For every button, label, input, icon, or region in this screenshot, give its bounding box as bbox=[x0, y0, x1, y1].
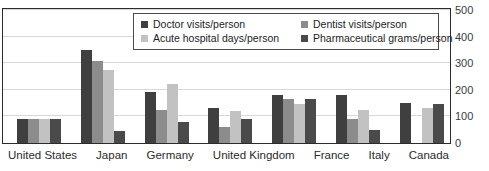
y-axis-tick-label: 400 bbox=[455, 31, 489, 42]
bar-chart: Doctor visits/person Dentist visits/pers… bbox=[0, 0, 489, 171]
bar[interactable] bbox=[145, 92, 156, 143]
bar[interactable] bbox=[28, 119, 39, 143]
y-axis-tick-label: 200 bbox=[455, 84, 489, 95]
x-axis-category-label: Germany bbox=[146, 148, 193, 168]
bar[interactable] bbox=[422, 108, 433, 143]
bar[interactable] bbox=[219, 127, 230, 143]
bar[interactable] bbox=[103, 70, 114, 143]
legend-swatch-pharmaceutical-grams bbox=[301, 35, 308, 42]
x-axis-category-label: Canada bbox=[409, 148, 449, 168]
bar-group bbox=[17, 9, 61, 143]
bar[interactable] bbox=[81, 50, 92, 143]
bar[interactable] bbox=[347, 119, 358, 143]
legend-label-acute-hospital-days: Acute hospital days/person bbox=[153, 32, 279, 44]
y-axis-tick-label: 0 bbox=[455, 138, 489, 149]
bar[interactable] bbox=[208, 108, 219, 143]
x-axis: United StatesJapanGermanyUnited KingdomF… bbox=[2, 148, 451, 168]
x-axis-category-label: United States bbox=[8, 148, 77, 168]
bar[interactable] bbox=[17, 119, 28, 143]
x-axis-category-label: France bbox=[314, 148, 350, 168]
y-axis-tick-label: 500 bbox=[455, 5, 489, 16]
x-axis-category-label: Japan bbox=[96, 148, 127, 168]
bar[interactable] bbox=[283, 99, 294, 143]
y-axis-tick-label: 100 bbox=[455, 111, 489, 122]
legend-entry-doctor-visits[interactable]: Doctor visits/person bbox=[141, 18, 299, 30]
x-axis-category-label: United Kingdom bbox=[213, 148, 295, 168]
legend-entry-acute-hospital-days[interactable]: Acute hospital days/person bbox=[141, 32, 299, 44]
chart-legend: Doctor visits/person Dentist visits/pers… bbox=[133, 13, 439, 50]
bar[interactable] bbox=[167, 84, 178, 143]
bar[interactable] bbox=[92, 61, 103, 143]
bar[interactable] bbox=[39, 119, 50, 143]
legend-swatch-acute-hospital-days bbox=[141, 35, 148, 42]
legend-label-dentist-visits: Dentist visits/person bbox=[313, 18, 407, 30]
bar[interactable] bbox=[336, 95, 347, 143]
y-axis-tick-label: 300 bbox=[455, 58, 489, 69]
legend-swatch-dentist-visits bbox=[301, 21, 308, 28]
x-axis-category-label: Italy bbox=[369, 148, 390, 168]
bar[interactable] bbox=[358, 110, 369, 143]
bar[interactable] bbox=[178, 122, 189, 143]
legend-label-doctor-visits: Doctor visits/person bbox=[153, 18, 245, 30]
bar[interactable] bbox=[272, 95, 283, 143]
bar[interactable] bbox=[400, 103, 411, 143]
bar[interactable] bbox=[230, 111, 241, 143]
bar[interactable] bbox=[305, 99, 316, 143]
bar[interactable] bbox=[369, 130, 380, 143]
legend-entry-pharmaceutical-grams[interactable]: Pharmaceutical grams/person bbox=[301, 32, 452, 44]
legend-entry-dentist-visits[interactable]: Dentist visits/person bbox=[301, 18, 452, 30]
y-axis: 0100200300400500 bbox=[455, 8, 489, 144]
legend-grid: Doctor visits/person Dentist visits/pers… bbox=[141, 18, 431, 44]
bar[interactable] bbox=[433, 104, 444, 143]
bar[interactable] bbox=[294, 104, 305, 143]
bar[interactable] bbox=[50, 119, 61, 143]
legend-swatch-doctor-visits bbox=[141, 21, 148, 28]
legend-label-pharmaceutical-grams: Pharmaceutical grams/person bbox=[313, 32, 452, 44]
bar-group bbox=[81, 9, 125, 143]
bar[interactable] bbox=[156, 110, 167, 143]
bar[interactable] bbox=[114, 131, 125, 143]
bar[interactable] bbox=[241, 119, 252, 143]
